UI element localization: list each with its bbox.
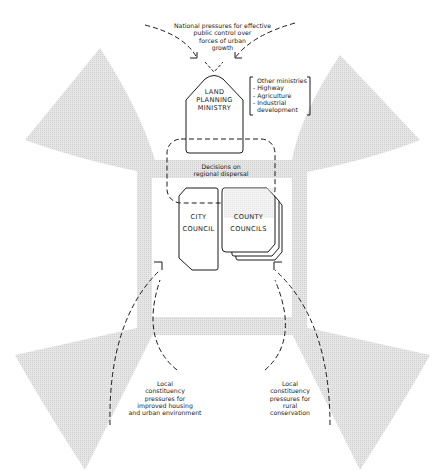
right-pressure-line: Local — [255, 380, 325, 387]
county-councils-line: COUNTY — [222, 212, 275, 224]
city-council-line: CITY — [179, 212, 218, 224]
top-pressure-line: forces of urban — [150, 37, 295, 44]
diagram-canvas: National pressures for effective public … — [0, 0, 444, 474]
top-pressure-line: growth — [150, 44, 295, 51]
left-pressure-line: Local — [120, 380, 210, 387]
left-pressure-line: improved housing — [120, 402, 210, 409]
county-councils-label: COUNTY COUNCILS — [222, 212, 275, 236]
decisions-label: Decisions on regional dispersal — [175, 163, 267, 178]
other-ministries-title: Other ministries — [253, 77, 311, 84]
city-council-line: COUNCIL — [179, 224, 218, 236]
county-councils-line: COUNCILS — [222, 224, 275, 236]
top-pressure-line: public control over — [150, 29, 295, 36]
other-ministries-item: development — [253, 106, 311, 113]
right-pressure-line: constituency — [255, 387, 325, 394]
top-pressure-line: National pressures for effective — [150, 22, 295, 29]
left-pressure-label: Local constituency pressures for improve… — [120, 380, 210, 417]
other-ministries-item: - Agriculture — [253, 92, 311, 99]
other-ministries-item: - Industrial — [253, 99, 311, 106]
right-pressure-line: pressures for — [255, 395, 325, 402]
left-pressure-line: and urban environment — [120, 409, 210, 416]
other-ministries-item: - Highway — [253, 84, 311, 91]
diagram-graphics — [0, 0, 444, 474]
decisions-line: regional dispersal — [175, 170, 267, 177]
right-pressure-line: conservation — [255, 409, 325, 416]
left-pressure-line: constituency — [120, 387, 210, 394]
decisions-line: Decisions on — [175, 163, 267, 170]
land-planning-ministry-label: LAND PLANNING MINISTRY — [186, 89, 243, 112]
ministry-line: MINISTRY — [186, 105, 243, 113]
city-council-label: CITY COUNCIL — [179, 212, 218, 236]
right-pressure-line: rural — [255, 402, 325, 409]
right-pressure-label: Local constituency pressures for rural c… — [255, 380, 325, 417]
top-pressure-label: National pressures for effective public … — [150, 22, 295, 51]
left-pressure-line: pressures for — [120, 395, 210, 402]
other-ministries-list: Other ministries - Highway - Agriculture… — [253, 77, 311, 114]
